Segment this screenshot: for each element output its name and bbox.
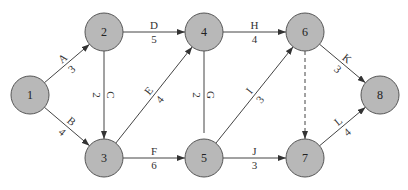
activity-label: H [251,19,259,31]
node-7: 7 [286,139,324,177]
arrow-line [116,47,192,143]
duration-label: 4 [341,125,353,138]
duration-label: 4 [252,33,258,45]
edge-3-4 [116,47,192,143]
node-5: 5 [185,139,223,177]
node-label: 4 [201,25,207,39]
duration-label: 3 [254,93,267,105]
arrow-line [320,44,366,83]
node-1: 1 [11,76,49,114]
activity-label: F [151,145,157,157]
node-label: 5 [201,151,207,165]
edge-7-8 [320,107,366,146]
node-label: 3 [101,151,107,165]
edge-6-8 [320,44,366,83]
node-label: 2 [101,25,107,39]
activity-label: I [243,85,255,96]
node-4: 4 [185,13,223,51]
arrow-line [320,107,366,146]
duration-label: 5 [151,33,157,45]
duration-label: 2 [91,92,103,98]
edge-1-2 [44,44,89,82]
duration-label: 4 [153,93,166,105]
node-label: 6 [302,25,308,39]
node-6: 6 [286,13,324,51]
edge-1-3 [44,107,89,145]
node-3: 3 [85,139,123,177]
duration-label: 6 [151,159,157,171]
arrow-line [216,47,293,143]
node-8: 8 [361,76,399,114]
arrow-line [44,44,89,82]
duration-label: 3 [252,159,258,171]
node-2: 2 [85,13,123,51]
edge-5-6 [216,47,293,143]
activity-label: D [150,19,158,31]
activity-label: J [252,145,257,157]
arrow-line [44,107,89,145]
diagram-svg: A3B4C2D5E4F6G2H4I3J3K3L4 12345678 [0,0,408,190]
node-label: 8 [377,88,383,102]
nodes-layer: 12345678 [11,13,399,177]
duration-label: 3 [66,62,78,75]
node-label: 1 [27,88,33,102]
duration-label: 3 [332,62,344,75]
duration-label: 2 [191,92,203,98]
node-label: 7 [302,151,308,165]
activity-label: G [205,91,217,99]
activity-label: C [105,91,117,98]
duration-label: 4 [56,125,68,138]
network-diagram: A3B4C2D5E4F6G2H4I3J3K3L4 12345678 [0,0,408,190]
